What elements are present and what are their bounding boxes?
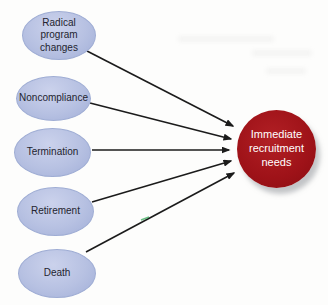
edge-death	[86, 173, 234, 252]
node-label: Termination	[24, 146, 82, 159]
node-death: Death	[18, 249, 96, 298]
bleed-through-artifact	[266, 68, 306, 74]
edge-noncompliance	[90, 103, 231, 139]
node-label: Immediate recruitment needs	[246, 128, 308, 169]
node-retirement: Retirement	[17, 187, 94, 236]
node-label: Noncompliance	[16, 92, 91, 105]
node-termination: Termination	[14, 128, 91, 177]
node-label: Death	[41, 267, 74, 280]
bleed-through-artifact	[252, 50, 312, 56]
node-noncompliance: Noncompliance	[16, 76, 91, 121]
diagram-canvas: Radical program changes Noncompliance Te…	[0, 0, 328, 305]
edge-retirement	[92, 161, 231, 202]
node-label: Radical program changes	[23, 17, 95, 55]
node-immediate-recruitment-needs: Immediate recruitment needs	[237, 110, 316, 188]
node-label: Retirement	[28, 205, 83, 218]
node-radical-program-changes: Radical program changes	[22, 11, 96, 60]
bleed-through-artifact	[178, 36, 274, 42]
edge-radical-program-changes	[87, 51, 233, 126]
